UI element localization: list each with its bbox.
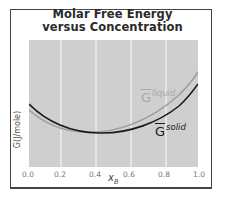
solid-label-sup: solid — [166, 122, 186, 132]
liquid-label-base: G — [141, 90, 151, 105]
x-tick-0.4: 0.4 — [89, 170, 101, 179]
x-tick-0.2: 0.2 — [54, 170, 66, 179]
x-tick-0.8: 0.8 — [158, 170, 170, 179]
x-axis-label: xB — [108, 172, 118, 186]
solid-label-base: G — [155, 124, 165, 139]
y-axis-label: G(J/mole) — [13, 100, 22, 160]
legend-solid: Gsolid — [155, 122, 186, 139]
x-tick-1.0: 1.0 — [193, 170, 205, 179]
x-tick-0.6: 0.6 — [123, 170, 135, 179]
chart-title-line-2: versus Concentration — [0, 21, 225, 34]
x-tick-0.0: 0.0 — [22, 170, 34, 179]
chart-title: Molar Free Energy versus Concentration — [0, 8, 225, 33]
chart-title-line-1: Molar Free Energy — [0, 8, 225, 21]
liquid-label-sup: liquid — [152, 88, 175, 98]
legend-liquid: Gliquid — [141, 88, 175, 105]
x-axis-label-subscript: B — [114, 178, 118, 186]
